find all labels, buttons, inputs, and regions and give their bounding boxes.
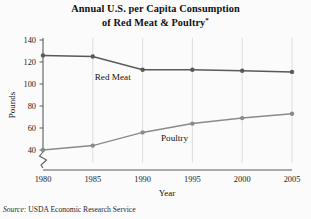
y-axis-title: Pounds bbox=[7, 91, 17, 118]
data-point bbox=[91, 143, 95, 147]
x-tick-label-1990: 1990 bbox=[134, 175, 151, 184]
data-point bbox=[240, 116, 244, 120]
x-tick-label-1995: 1995 bbox=[184, 175, 201, 184]
y-tick-label-40: 40 bbox=[28, 146, 36, 155]
chart-figure: Annual U.S. per Capita Consumption of Re… bbox=[0, 0, 311, 200]
data-point bbox=[91, 54, 95, 58]
source-text: USDA Economic Research Service bbox=[26, 205, 135, 214]
source-note: Source: USDA Economic Research Service bbox=[3, 205, 136, 214]
data-point bbox=[290, 112, 294, 116]
data-point bbox=[190, 68, 194, 72]
x-tick-label-1985: 1985 bbox=[84, 175, 101, 184]
data-point bbox=[190, 121, 194, 125]
y-tick-label-140: 140 bbox=[23, 36, 36, 45]
x-axis-title: Year bbox=[159, 188, 176, 198]
data-point bbox=[41, 53, 45, 57]
y-tick-label-100: 100 bbox=[23, 80, 36, 89]
data-point bbox=[240, 69, 244, 73]
data-point bbox=[41, 148, 45, 152]
x-tick-label-2000: 2000 bbox=[234, 175, 251, 184]
x-tick-label-1980: 1980 bbox=[35, 175, 52, 184]
source-label: Source: bbox=[3, 205, 26, 214]
data-point bbox=[140, 130, 144, 134]
series-label-poultry: Poultry bbox=[161, 133, 188, 143]
data-point bbox=[290, 70, 294, 74]
y-tick-label-80: 80 bbox=[28, 102, 36, 111]
series-label-red-meat: Red Meat bbox=[95, 72, 131, 82]
x-tick-label-2005: 2005 bbox=[284, 175, 301, 184]
data-point bbox=[140, 68, 144, 72]
y-tick-label-120: 120 bbox=[23, 58, 36, 67]
chart-screenshot: Annual U.S. per Capita Consumption of Re… bbox=[0, 0, 311, 219]
plot-area: 140 120 100 80 60 40 Pounds 1980 1985 19… bbox=[0, 0, 311, 200]
y-tick-label-60: 60 bbox=[28, 124, 36, 133]
